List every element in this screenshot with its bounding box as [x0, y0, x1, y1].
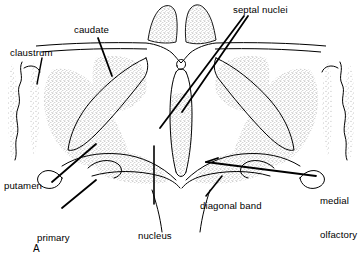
- left-hemisphere-grey: [8, 56, 168, 184]
- septal-column-grey: [170, 93, 193, 178]
- panel-label: A: [33, 243, 40, 254]
- label-line: nucleus: [138, 230, 188, 241]
- superior-medial-gyri: [148, 5, 216, 44]
- label-caudate: caudate: [74, 24, 109, 35]
- corpus-callosum: [36, 43, 326, 63]
- label-diagonal-band: diagonal band: [200, 200, 262, 211]
- label-line: medial: [320, 195, 357, 206]
- label-line: primary: [37, 232, 74, 243]
- label-putamen: putamen: [4, 180, 42, 191]
- label-line: olfactory: [320, 229, 357, 240]
- label-claustrum: claustrum: [10, 47, 52, 58]
- label-septal-nuclei: septal nuclei: [233, 4, 288, 15]
- left-basal-forebrain-region: [94, 149, 168, 184]
- leader-primary-olfactory: [62, 180, 96, 208]
- brain-section-figure: claustrum caudate septal nuclei putamen …: [0, 0, 362, 258]
- label-nucleus-accumbens: nucleus accumbens: [138, 208, 188, 258]
- label-medial-olfactory-gyrus: medial olfactory gyrus: [320, 173, 357, 258]
- label-primary-olfactory-area: primary olfactory area: [37, 210, 74, 258]
- leader-claustrum: [37, 58, 42, 84]
- right-hemisphere-grey: [194, 56, 354, 184]
